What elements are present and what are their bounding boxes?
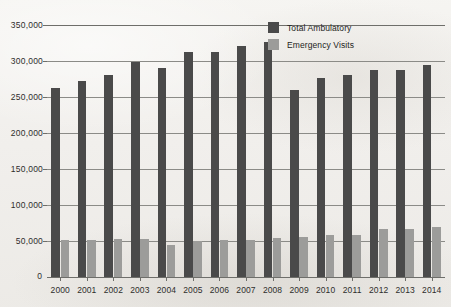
x-axis-tick-label: 2012 (369, 285, 388, 295)
x-axis-tick (405, 277, 406, 281)
x-axis-tick-label: 2004 (157, 285, 176, 295)
x-axis-tick-label: 2007 (236, 285, 255, 295)
bar-emergency-visits (352, 235, 361, 277)
x-axis-tick (326, 277, 327, 281)
bar-group (51, 25, 69, 277)
bar-total-ambulatory (211, 52, 220, 277)
y-axis-tick-label: 250,000 (0, 92, 43, 102)
legend-label: Total Ambulatory (287, 23, 351, 33)
x-axis-tick (273, 277, 274, 281)
bar-group (237, 25, 255, 277)
x-axis-tick (246, 277, 247, 281)
legend-item-total-ambulatory: Total Ambulatory (268, 22, 354, 33)
legend-swatch-icon (268, 22, 279, 33)
x-axis-tick (379, 277, 380, 281)
x-axis-tick-label: 2006 (210, 285, 229, 295)
bar-emergency-visits (87, 240, 96, 277)
x-axis-tick (87, 277, 88, 281)
x-axis-tick-label: 2003 (130, 285, 149, 295)
x-axis-tick (352, 277, 353, 281)
bar-total-ambulatory (343, 75, 352, 277)
bar-group (370, 25, 388, 277)
y-axis-tick-label: 50,000 (0, 236, 43, 246)
x-axis-tick (432, 277, 433, 281)
bar-total-ambulatory (317, 78, 326, 277)
bar-emergency-visits (140, 239, 149, 277)
x-axis-tick (166, 277, 167, 281)
x-axis-tick (219, 277, 220, 281)
bar-group (104, 25, 122, 277)
x-axis-tick-label: 2000 (51, 285, 70, 295)
legend-label: Emergency Visits (287, 40, 354, 50)
bar-emergency-visits (326, 235, 335, 277)
bar-emergency-visits (246, 240, 255, 277)
bar-groups (47, 25, 445, 277)
legend-swatch-icon (268, 39, 279, 50)
y-axis-tick-label: 200,000 (0, 128, 43, 138)
bar-total-ambulatory (264, 42, 273, 277)
bar-chart: 50,000100,000150,000200,000250,000300,00… (0, 0, 451, 307)
y-axis-zero-label: 0 (22, 271, 42, 281)
bar-total-ambulatory (51, 88, 60, 277)
bar-group (211, 25, 229, 277)
x-axis-tick-label: 2009 (289, 285, 308, 295)
y-axis-tick-label: 350,000 (0, 20, 43, 30)
x-axis-tick-label: 2005 (183, 285, 202, 295)
bar-group (317, 25, 335, 277)
bar-total-ambulatory (104, 75, 113, 277)
x-axis-tick (299, 277, 300, 281)
bar-group (264, 25, 282, 277)
bar-emergency-visits (432, 227, 441, 277)
bar-group (290, 25, 308, 277)
bar-total-ambulatory (184, 52, 193, 277)
bar-group (184, 25, 202, 277)
x-axis-tick-label: 2014 (422, 285, 441, 295)
bar-total-ambulatory (396, 70, 405, 277)
bar-emergency-visits (379, 229, 388, 277)
y-axis-tick-label: 150,000 (0, 164, 43, 174)
x-axis-tick (140, 277, 141, 281)
chart-legend: Total Ambulatory Emergency Visits (268, 22, 354, 50)
legend-item-emergency-visits: Emergency Visits (268, 39, 354, 50)
bar-total-ambulatory (423, 65, 432, 277)
x-axis-tick-label: 2011 (343, 285, 362, 295)
y-axis-tick-label: 100,000 (0, 200, 43, 210)
bar-group (131, 25, 149, 277)
y-axis-tick-label: 300,000 (0, 56, 43, 66)
bar-emergency-visits (299, 237, 308, 277)
x-axis-tick (193, 277, 194, 281)
bar-emergency-visits (61, 240, 70, 277)
x-axis-tick-label: 2010 (316, 285, 335, 295)
bar-total-ambulatory (158, 68, 167, 277)
bar-emergency-visits (405, 229, 414, 277)
bar-group (78, 25, 96, 277)
bar-emergency-visits (193, 241, 202, 277)
bar-total-ambulatory (290, 90, 299, 277)
x-axis-tick-label: 2001 (77, 285, 96, 295)
x-axis-tick-label: 2013 (396, 285, 415, 295)
bar-group (343, 25, 361, 277)
x-axis-tick (113, 277, 114, 281)
bar-group (396, 25, 414, 277)
bar-emergency-visits (114, 239, 123, 277)
bar-emergency-visits (167, 245, 176, 277)
bar-total-ambulatory (370, 70, 379, 277)
x-axis-tick-label: 2002 (104, 285, 123, 295)
bar-total-ambulatory (78, 81, 87, 277)
bar-emergency-visits (220, 240, 229, 277)
bar-emergency-visits (273, 238, 282, 277)
bar-total-ambulatory (237, 46, 246, 277)
bar-total-ambulatory (131, 62, 140, 277)
x-axis-tick (60, 277, 61, 281)
bar-group (158, 25, 176, 277)
bar-group (423, 25, 441, 277)
plot-area (47, 25, 445, 277)
x-axis-tick-label: 2008 (263, 285, 282, 295)
